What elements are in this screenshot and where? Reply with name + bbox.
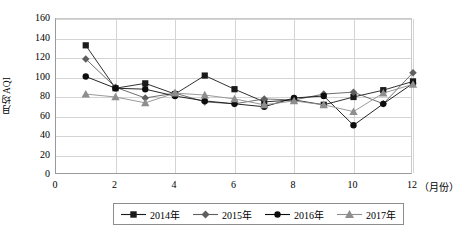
series-line [86,59,413,104]
legend-item-2014年[interactable]: 2014年 [121,207,180,222]
x-tick-label: 6 [219,179,249,190]
series-2014年 [83,42,416,108]
y-tick-label: 140 [10,32,50,43]
legend-item-2015年[interactable]: 2015年 [193,207,252,222]
gridline-vertical [413,19,414,173]
y-tick-label: 100 [10,71,50,82]
series-2015年 [82,55,417,107]
x-tick-label: 8 [278,179,308,190]
legend-marker-triangle-icon [337,209,362,220]
data-point [202,98,208,104]
data-point [82,90,90,98]
series-layer [56,19,413,175]
plot-area [55,18,412,174]
x-tick-label: 10 [338,179,368,190]
data-point [350,122,356,128]
data-point [231,86,237,92]
y-tick-label: 40 [10,129,50,140]
data-point [112,85,118,91]
legend-marker-circle-icon [265,209,290,220]
legend-label: 2017年 [365,207,396,222]
y-tick-label: 160 [10,12,50,23]
legend-label: 2014年 [149,207,180,222]
y-tick-label: 120 [10,51,50,62]
y-tick-label: 80 [10,90,50,101]
series-2016年 [83,73,417,128]
y-tick-label: 20 [10,149,50,160]
legend-label: 2016年 [293,207,324,222]
legend-marker-square-icon [121,209,146,220]
legend-marker-diamond-icon [193,209,218,220]
y-tick-label: 60 [10,110,50,121]
legend-item-2016年[interactable]: 2016年 [265,207,324,222]
x-axis-unit-label: （月份） [419,179,459,194]
data-point [83,73,89,79]
x-tick-label: 4 [159,179,189,190]
data-point [380,101,386,107]
x-tick-label: 2 [100,179,130,190]
data-point [142,80,148,86]
data-point [83,42,89,48]
chart-legend: 2014年2015年2016年2017年 [113,203,404,225]
data-point [142,86,148,92]
x-tick-label: 0 [40,179,70,190]
data-point [321,93,327,99]
data-point [202,72,208,78]
legend-label: 2015年 [221,207,252,222]
y-tick-label: 0 [10,168,50,179]
legend-item-2017年[interactable]: 2017年 [337,207,396,222]
chart-root: 月均AQI 020406080100120140160 024681012 （月… [0,0,462,233]
